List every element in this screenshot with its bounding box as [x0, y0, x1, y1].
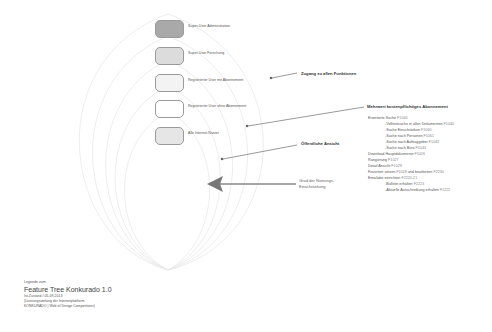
- role-box-all-internet-users: [155, 127, 184, 145]
- callout-public-view: Öffentliche Ansicht: [301, 141, 339, 146]
- feature-item: -Aktuelle Ausschreibung erhaltenF2222: [368, 187, 454, 193]
- legend-title: Feature Tree Konkurado 1.0: [24, 285, 112, 294]
- role-label: Super-User Forschung: [188, 51, 224, 56]
- role-box-super-user-research: [155, 47, 184, 65]
- restriction-axis-label: Grad der Nutzungs- Einschränkung: [299, 178, 334, 190]
- role-label: Registrierter User ohne Abonnement: [188, 104, 246, 109]
- callout-all-functions: Zugang zu allen Funktionen: [301, 71, 356, 76]
- role-label: Alle Internet-Nutzer: [188, 131, 219, 136]
- feature-tree-diagram: Super-User Administration Super-User For…: [0, 0, 492, 332]
- legend-line: KONKURADO | Web of Design Competitions): [24, 304, 112, 309]
- feature-list: Erweiterte SucheF1040 -Volltextsuche in …: [368, 115, 454, 193]
- role-box-registered-with-subscription: [155, 74, 184, 92]
- role-label: Super-User Administration: [188, 24, 230, 29]
- role-box-super-user-admin: [155, 20, 184, 38]
- restriction-arrow: [207, 176, 296, 192]
- role-label: Registrierter User mit Abonnement: [188, 78, 243, 83]
- role-box-registered-without-subscription: [155, 100, 184, 118]
- callout-paid-subscription: Mehrwert kostenpflichtiges Abonnement: [367, 104, 448, 109]
- legend: Legende zum Feature Tree Konkurado 1.0 I…: [24, 280, 112, 309]
